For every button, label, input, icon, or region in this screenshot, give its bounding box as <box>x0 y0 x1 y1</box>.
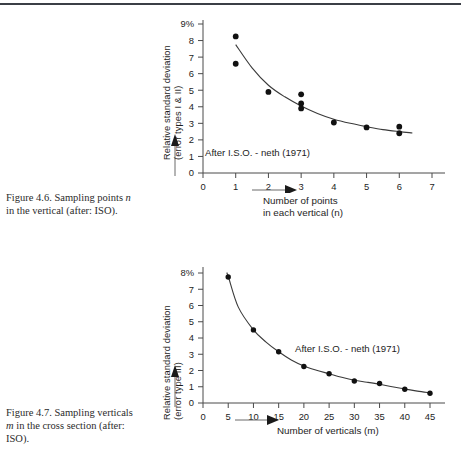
figure-4-7: Relative standard deviation (error type … <box>140 255 455 445</box>
chart1-data-point <box>396 124 402 130</box>
chart1-y-tick-label: 5 <box>189 85 194 96</box>
caption1-italic: n <box>126 192 131 203</box>
chart1-data-point <box>298 91 304 97</box>
caption2-suffix: in the cross section (after: <box>14 420 125 431</box>
chart2-data-point <box>276 349 281 354</box>
chart1-y-tick-label: 7 <box>189 52 194 63</box>
chart1-data-point <box>266 89 272 95</box>
chart2-x-tick-label: 5 <box>226 411 231 422</box>
chart1-y-tick-label: 4 <box>189 101 194 112</box>
chart2-x-tick-label: 30 <box>349 411 359 422</box>
chart2-x-tick-label: 40 <box>400 411 410 422</box>
chart2-y-axis-title-line2: (error type III) <box>173 362 183 420</box>
chart2-x-tick-label: 35 <box>374 411 384 422</box>
chart2-y-tick-label: 4 <box>189 332 194 343</box>
chart2-data-point <box>251 327 256 332</box>
chart1-x-tick-label: 3 <box>299 181 304 192</box>
chart1-x-tick-label: 1 <box>233 181 238 192</box>
chart1-data-point <box>233 34 239 40</box>
chart2-data-point <box>427 391 432 396</box>
chart1-data-point <box>331 120 337 126</box>
chart1-y-tick-label: 2 <box>189 134 194 145</box>
chart2-x-ticks: 051015202530354045 <box>200 403 435 422</box>
chart1-y-tick-label: 8 <box>189 35 194 46</box>
chart1-x-tick-label: 4 <box>331 181 336 192</box>
chart2-x-tick-label: 0 <box>200 411 205 422</box>
chart2-data-point <box>352 378 357 383</box>
chart1-x-axis-title: Number of points in each vertical (n) <box>263 195 343 219</box>
chart1-data-point <box>396 130 402 136</box>
chart2-y-tick-label: 5 <box>189 316 194 327</box>
chart1-data-point <box>298 106 304 112</box>
chart2-data-point <box>377 381 382 386</box>
chart2-x-axis-title: Number of verticals (m) <box>277 425 379 437</box>
chart2-y-tick-label: 7 <box>189 284 194 295</box>
chart2-data-point <box>326 371 331 376</box>
caption2-italic: m <box>6 420 14 431</box>
caption1-line2: in the vertical (after: ISO). <box>6 205 118 216</box>
chart1-y-tick-label: 6 <box>189 68 194 79</box>
chart1-data-point <box>364 125 370 131</box>
chart1-data-point <box>233 61 239 67</box>
caption1-prefix: Figure 4.6. Sampling points <box>6 192 126 203</box>
figure-4-6-caption: Figure 4.6. Sampling points n in the ver… <box>6 191 156 217</box>
chart2-y-tick-label: 1 <box>189 381 194 392</box>
chart1-x-tick-label: 0 <box>200 181 205 192</box>
chart1-x-axis-title-line1: Number of points <box>263 195 338 206</box>
chart2-y-tick-label: 0 <box>189 397 194 408</box>
chart1-x-tick-label: 6 <box>397 181 402 192</box>
chart2-data-point <box>402 386 407 391</box>
chart2-y-tick-label: 8% <box>180 267 194 278</box>
chart1-y-tick-label: 1 <box>189 151 194 162</box>
chart1-y-axis-title-line1: Relative standard deviation <box>162 45 172 160</box>
chart2-x-tick-label: 20 <box>299 411 309 422</box>
chart1-x-tick-label: 7 <box>429 181 434 192</box>
chart1-y-tick-label: 3 <box>189 118 194 129</box>
chart2-y-ticks: 012345678% <box>180 267 203 408</box>
chart1-plot: 0123456789% 01234567 <box>140 8 455 193</box>
page-top-rule <box>0 3 461 5</box>
chart1-data-point <box>298 101 304 107</box>
chart2-y-tick-label: 2 <box>189 365 194 376</box>
figure-4-6: Relative standard deviation (error types… <box>140 8 455 188</box>
chart2-x-tick-label: 45 <box>425 411 435 422</box>
chart1-x-tick-label: 5 <box>364 181 369 192</box>
chart2-data-point <box>226 274 231 279</box>
chart1-y-tick-label: 0 <box>189 167 194 178</box>
chart1-x-ticks: 01234567 <box>200 173 434 192</box>
chart2-annotation: After I.S.O. - neth (1971) <box>295 343 400 354</box>
document-page: Relative standard deviation (error types… <box>0 0 461 461</box>
figure-4-7-caption: Figure 4.7. Sampling verticals m in the … <box>6 406 156 445</box>
caption2-line2: ISO). <box>6 433 29 444</box>
chart2-y-axis-title-line1: Relative standard deviation <box>162 305 172 420</box>
chart1-fit-curve <box>236 45 413 133</box>
chart1-y-ticks: 0123456789% <box>180 18 203 178</box>
chart1-x-direction-arrow <box>252 185 297 193</box>
chart2-x-axis-title-line1: Number of verticals (m) <box>277 425 379 436</box>
chart2-data-points <box>226 274 433 396</box>
chart1-annotation: After I.S.O. - neth (1971) <box>205 147 310 158</box>
chart2-data-point <box>301 364 306 369</box>
chart1-data-points <box>233 34 402 137</box>
chart2-y-tick-label: 6 <box>189 300 194 311</box>
chart2-x-tick-label: 25 <box>324 411 334 422</box>
caption2-prefix: Figure 4.7. Sampling verticals <box>6 407 133 418</box>
chart1-x-axis-title-line2: in each vertical (n) <box>263 207 343 218</box>
chart2-y-tick-label: 3 <box>189 349 194 360</box>
chart1-y-axis-title-line2: (error types I & II) <box>173 86 183 160</box>
chart1-y-tick-label: 9% <box>180 18 194 29</box>
